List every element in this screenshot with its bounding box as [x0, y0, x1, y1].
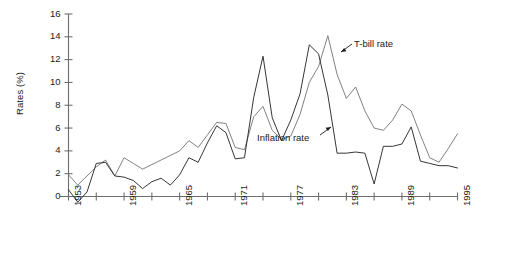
- x-axis-tick-label: 1989: [406, 184, 416, 205]
- x-axis-tick-label: 1995: [462, 184, 472, 205]
- y-axis-tick-label: 4: [39, 145, 61, 155]
- y-axis-tick-label: 0: [39, 191, 61, 201]
- chart-axes: [60, 14, 458, 201]
- chart-container: Rates (%) 0246810121416 1953195919651971…: [0, 0, 506, 253]
- y-axis-tick-label: 14: [39, 31, 61, 41]
- x-axis-tick-label: 1953: [73, 184, 83, 205]
- y-axis-tick-label: 12: [39, 54, 61, 64]
- annotation-arrows: [320, 44, 352, 135]
- x-axis-tick-label: 1959: [128, 184, 138, 205]
- y-axis-tick-label: 6: [39, 123, 61, 133]
- series-line-inflation-rate: [69, 45, 458, 202]
- chart-series-group: [69, 36, 458, 203]
- y-axis-tick-label: 10: [39, 77, 61, 87]
- x-axis-tick-label: 1983: [350, 184, 360, 205]
- x-axis-tick-label: 1971: [239, 184, 249, 205]
- tbill-series-label: T-bill rate: [354, 38, 393, 49]
- y-axis-tick-label: 16: [39, 9, 61, 19]
- y-axis-tick-label: 8: [39, 100, 61, 110]
- x-axis-tick-label: 1977: [295, 184, 305, 205]
- inflation-series-label: Inflation rate: [257, 132, 309, 143]
- chart-plot-area: [0, 0, 506, 253]
- x-axis-tick-label: 1965: [184, 184, 194, 205]
- y-axis-title: Rates (%): [14, 54, 25, 134]
- y-axis-tick-label: 2: [39, 168, 61, 178]
